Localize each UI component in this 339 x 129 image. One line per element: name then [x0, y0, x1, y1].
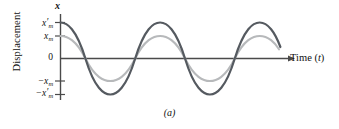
x-axis-title: Time (t) — [290, 52, 324, 63]
tick-prime: ′ — [46, 17, 48, 27]
tick-base: −x — [36, 88, 47, 98]
y-tick-label-neg-xm: −xm — [19, 76, 53, 86]
y-tick-label-xm-prime: x′m — [19, 18, 53, 28]
y-tick-label-zero: 0 — [19, 52, 53, 62]
y-axis-title: Displacement — [11, 4, 22, 80]
tick-prime: ′ — [46, 87, 48, 97]
tick-base: −x — [38, 76, 49, 86]
y-tick-label-xm: xm — [19, 31, 53, 41]
tick-subscript: m — [49, 22, 54, 29]
x-axis-title-text: Time ( — [290, 52, 318, 63]
tick-subscript: m — [49, 80, 54, 87]
y-axis-symbol-label: x — [55, 0, 60, 11]
tick-base: 0 — [48, 52, 53, 62]
oscillation-figure: Displacement x Time (t) x′m xm 0 −xm −x′… — [0, 0, 339, 129]
figure-caption: (a) — [0, 107, 339, 118]
y-tick-label-neg-xm-prime: −x′m — [19, 88, 53, 98]
tick-subscript: m — [49, 35, 54, 42]
x-axis-title-close: ) — [321, 52, 325, 63]
tick-base: x — [44, 31, 48, 41]
tick-subscript: m — [49, 92, 54, 99]
